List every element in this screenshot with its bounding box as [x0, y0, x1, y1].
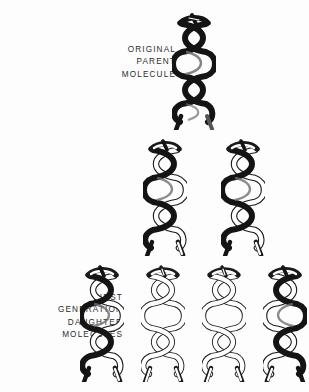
row-second-generation: SECOND GENERATION DAUGHTER MOLECULES: [0, 258, 309, 392]
first-gen-molecule-1: [143, 138, 187, 256]
row-first-generation: FIRST GENERATION DAUGHTER MOLECULES: [0, 130, 309, 258]
label-line: MOLECULE: [122, 69, 176, 81]
second-gen-molecule-4: [263, 264, 307, 382]
dna-replication-figure: ORIGINAL PARENT MOLECULE: [0, 0, 309, 392]
label-original-parent: ORIGINAL PARENT MOLECULE: [122, 44, 176, 81]
second-gen-molecule-3: [202, 264, 246, 382]
label-line: ORIGINAL: [122, 44, 176, 56]
parent-molecule: [172, 12, 216, 130]
second-gen-molecule-2: [141, 264, 185, 382]
row-original-parent: ORIGINAL PARENT MOLECULE: [0, 0, 309, 130]
label-line: PARENT: [122, 56, 176, 68]
first-gen-molecule-2: [221, 138, 265, 256]
second-gen-molecule-1: [80, 264, 124, 382]
